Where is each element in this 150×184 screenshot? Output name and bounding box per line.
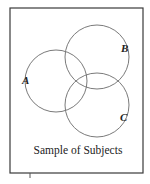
set-b-label: B (120, 42, 128, 54)
set-b-circle (65, 25, 129, 89)
diagram-caption: Sample of Subjects (34, 144, 123, 157)
set-a-circle (25, 50, 87, 112)
set-c-circle (65, 73, 129, 137)
set-a-label: A (21, 74, 29, 86)
venn-diagram: A B C Sample of Subjects (0, 0, 150, 184)
set-c-label: C (120, 111, 128, 123)
